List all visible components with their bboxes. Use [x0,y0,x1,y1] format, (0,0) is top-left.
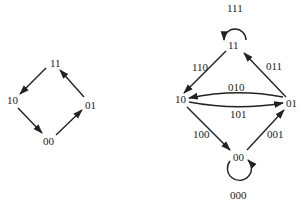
edge-00-self-loop [227,160,251,180]
edge-01-to-11 [60,70,84,97]
node-10: 10 [7,94,19,106]
node-00: 00 [233,151,245,163]
edge-01-to-10 [189,93,283,98]
edge-label-010: 010 [228,81,245,93]
edge-label-001: 001 [267,128,284,140]
node-00: 00 [43,135,55,147]
node-01: 01 [85,99,96,111]
edge-00-to-01 [56,110,82,135]
edge-label-111: 111 [227,2,243,14]
edge-11-to-10 [20,68,46,94]
edge-10-to-01 [189,102,283,107]
node-01: 01 [286,97,297,109]
node-11: 11 [50,57,61,69]
edge-10-to-00 [18,108,42,133]
node-10: 10 [175,93,187,105]
left-diagram: 11 10 01 00 [7,57,96,147]
edge-label-110: 110 [192,61,209,73]
right-diagram: 11 10 01 00 111 110 011 010 101 100 001 … [175,2,297,201]
node-11: 11 [228,39,239,51]
edge-label-011: 011 [266,60,282,72]
edge-label-101: 101 [230,108,247,120]
edge-label-000: 000 [230,189,247,201]
diagram-canvas: 11 10 01 00 11 10 01 00 111 110 011 010 … [0,0,305,208]
edge-label-100: 100 [193,128,210,140]
